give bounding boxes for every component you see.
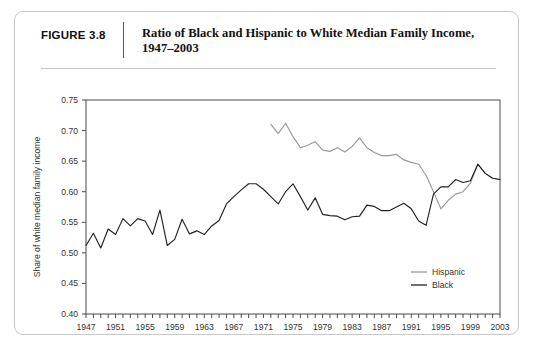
legend-label-black: Black	[432, 280, 454, 290]
svg-text:1987: 1987	[372, 322, 391, 332]
svg-text:1947: 1947	[76, 322, 95, 332]
header-rule	[41, 68, 496, 69]
svg-text:0.70: 0.70	[61, 126, 78, 136]
svg-text:0.50: 0.50	[61, 248, 78, 258]
svg-text:1963: 1963	[195, 322, 214, 332]
chart-area: 0.400.450.500.550.600.650.700.75 1947195…	[15, 72, 518, 332]
y-axis-ticks: 0.400.450.500.550.600.650.700.75	[61, 95, 86, 319]
figure-number: FIGURE 3.8	[41, 29, 106, 41]
chart-legend[interactable]: HispanicBlack	[411, 267, 466, 290]
svg-text:1975: 1975	[283, 322, 302, 332]
figure-title: Ratio of Black and Hispanic to White Med…	[142, 26, 492, 56]
figure-header: FIGURE 3.8 Ratio of Black and Hispanic t…	[15, 12, 518, 68]
svg-text:1995: 1995	[431, 322, 450, 332]
svg-text:1955: 1955	[136, 322, 155, 332]
svg-text:0.65: 0.65	[61, 156, 78, 166]
svg-text:1951: 1951	[106, 322, 125, 332]
series-line-hispanic	[271, 123, 500, 209]
svg-text:0.60: 0.60	[61, 187, 78, 197]
svg-text:1983: 1983	[343, 322, 362, 332]
svg-text:0.55: 0.55	[61, 217, 78, 227]
svg-text:1999: 1999	[461, 322, 480, 332]
svg-text:0.45: 0.45	[61, 278, 78, 288]
y-axis-title: Share of white median family income	[32, 137, 42, 278]
svg-text:1991: 1991	[402, 322, 421, 332]
svg-text:0.40: 0.40	[61, 309, 78, 319]
series-group	[86, 123, 500, 248]
line-chart: 0.400.450.500.550.600.650.700.75 1947195…	[15, 72, 520, 332]
svg-text:1959: 1959	[165, 322, 184, 332]
legend-label-hispanic: Hispanic	[432, 267, 466, 277]
svg-text:2003: 2003	[490, 322, 509, 332]
svg-text:0.75: 0.75	[61, 95, 78, 105]
x-axis-ticks: 1947195119551959196319671971197519791983…	[76, 314, 509, 332]
series-line-black	[86, 164, 500, 248]
figure-card: FIGURE 3.8 Ratio of Black and Hispanic t…	[14, 11, 519, 335]
svg-text:1971: 1971	[254, 322, 273, 332]
svg-text:1967: 1967	[224, 322, 243, 332]
svg-text:1979: 1979	[313, 322, 332, 332]
header-divider	[123, 22, 124, 58]
